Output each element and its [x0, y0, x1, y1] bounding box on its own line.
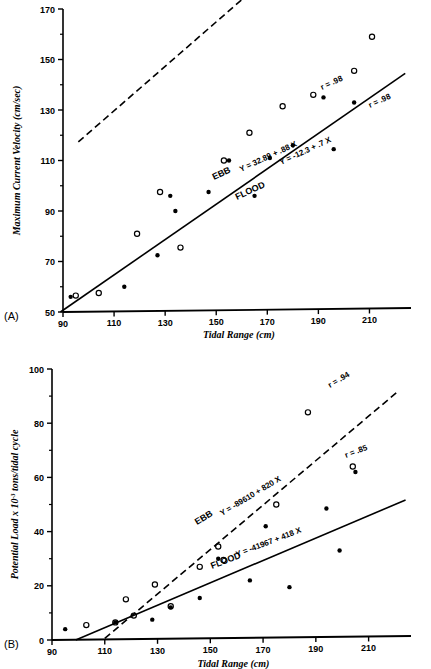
- y-axis-title: Maximum Current Velocity (cm/sec): [11, 86, 23, 237]
- y-tick-label: 100: [29, 365, 44, 375]
- data-point-filled: [321, 95, 325, 99]
- fit-line-ebb: [105, 392, 398, 639]
- data-point-open: [352, 68, 357, 73]
- x-tick-label: 190: [311, 316, 326, 326]
- x-axis-line: [63, 308, 411, 312]
- data-point-filled: [264, 524, 268, 528]
- y-tick-label: 60: [34, 473, 44, 483]
- chart-b: 02040608010090110130150170190210EBBY = -…: [0, 340, 431, 669]
- correlation-flood: r = .85: [343, 443, 369, 460]
- series-label-ebb: EBB: [211, 165, 233, 182]
- data-point-filled: [206, 190, 210, 194]
- data-point-open: [134, 231, 139, 236]
- data-point-filled: [173, 209, 177, 213]
- series-label-ebb: EBB: [193, 508, 215, 527]
- data-point-open: [73, 293, 78, 298]
- data-point-open: [197, 564, 202, 569]
- y-tick-label: 90: [45, 207, 55, 217]
- data-point-open: [221, 158, 226, 163]
- data-point-open: [123, 597, 128, 602]
- correlation-ebb: r = .98: [319, 74, 344, 92]
- data-point-filled: [227, 158, 231, 162]
- y-tick-label: 150: [40, 55, 55, 65]
- x-tick-label: 110: [107, 318, 122, 328]
- x-tick-label: 210: [361, 643, 376, 653]
- fit-line-ebb: [78, 0, 384, 142]
- x-axis-title: Tidal Range (cm): [198, 658, 270, 669]
- x-tick-label: 130: [158, 318, 173, 328]
- data-point-filled: [68, 295, 72, 299]
- panel-a: 50709011013015017090110130150170190210EB…: [0, 0, 431, 340]
- data-point-filled: [168, 194, 172, 198]
- points-flood: [68, 95, 356, 299]
- data-point-open: [311, 92, 316, 97]
- data-point-open: [178, 245, 183, 250]
- data-point-filled: [352, 100, 356, 104]
- data-point-open: [350, 464, 355, 469]
- data-point-open: [247, 130, 252, 135]
- y-tick-label: 0: [39, 636, 44, 646]
- y-tick-label: 170: [40, 5, 55, 15]
- x-tick-label: 90: [47, 647, 57, 657]
- data-point-filled: [63, 627, 67, 631]
- data-point-open: [280, 104, 285, 109]
- panel-letter: (B): [4, 638, 19, 650]
- y-tick-label: 70: [45, 257, 55, 267]
- y-tick-label: 110: [40, 156, 55, 166]
- y-axis-title: Potential Load x 10-3 tons/tidal cycle: [9, 429, 20, 579]
- x-tick-label: 90: [58, 319, 68, 329]
- data-point-open: [216, 544, 221, 549]
- y-tick-label: 130: [40, 106, 55, 116]
- data-point-filled: [287, 585, 291, 589]
- panel-b: 02040608010090110130150170190210EBBY = -…: [0, 340, 431, 669]
- data-point-open: [274, 502, 279, 507]
- points-flood: [63, 470, 358, 632]
- data-point-open: [369, 34, 374, 39]
- data-point-filled: [248, 578, 252, 582]
- data-point-filled: [198, 596, 202, 600]
- x-tick-label: 170: [260, 317, 275, 327]
- data-point-filled: [113, 620, 117, 624]
- x-tick-label: 210: [362, 315, 377, 325]
- x-axis-title: Tidal Range (cm): [203, 329, 275, 340]
- correlation-flood: r = .98: [367, 92, 392, 110]
- y-tick-label: 40: [34, 527, 44, 537]
- data-point-filled: [324, 506, 328, 510]
- data-point-filled: [150, 617, 154, 621]
- data-point-open: [152, 582, 157, 587]
- correlation-ebb: r = .94: [326, 370, 351, 390]
- data-point-open: [96, 290, 101, 295]
- data-point-open: [305, 410, 310, 415]
- y-tick-label: 50: [45, 308, 55, 318]
- fit-line-flood: [76, 500, 406, 640]
- x-tick-label: 170: [256, 645, 271, 655]
- data-point-filled: [337, 548, 341, 552]
- x-tick-label: 150: [203, 645, 218, 655]
- data-point-filled: [332, 147, 336, 151]
- data-point-filled: [155, 253, 159, 257]
- series-label-flood: FLOOD: [234, 179, 267, 202]
- data-point-open: [157, 189, 162, 194]
- equation-flood: Y = -41967 + 418 X: [234, 525, 302, 558]
- data-point-filled: [353, 470, 357, 474]
- x-tick-label: 130: [150, 646, 165, 656]
- x-tick-label: 190: [308, 644, 323, 654]
- panel-letter: (A): [4, 310, 19, 322]
- data-point-filled: [169, 605, 173, 609]
- x-tick-label: 110: [98, 646, 113, 656]
- data-point-filled: [122, 285, 126, 289]
- y-tick-label: 20: [34, 581, 44, 591]
- chart-a: 50709011013015017090110130150170190210EB…: [0, 0, 431, 340]
- y-tick-label: 80: [34, 419, 44, 429]
- x-tick-label: 150: [209, 317, 224, 327]
- data-point-open: [84, 622, 89, 627]
- points-ebb: [84, 410, 356, 628]
